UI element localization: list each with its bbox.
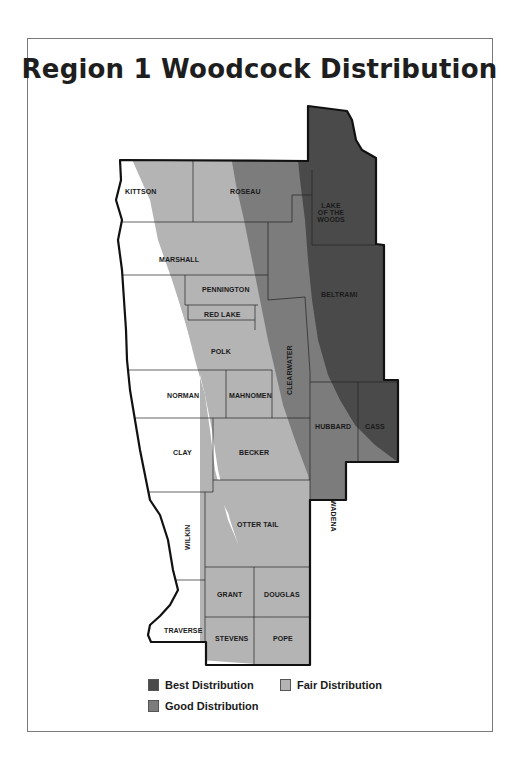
label-hubbard: HUBBARD (315, 423, 351, 430)
label-traverse: TRAVERSE (164, 627, 203, 634)
label-clearwater: CLEARWATER (286, 345, 293, 395)
best-swatch-icon (148, 679, 159, 691)
legend-good: Good Distribution (148, 700, 258, 712)
label-becker: BECKER (239, 449, 269, 456)
label-cass: CASS (365, 423, 385, 430)
label-red-lake: RED LAKE (204, 311, 241, 318)
label-polk: POLK (211, 348, 231, 355)
label-lake-of-the-woods-3: WOODS (317, 216, 345, 223)
label-wilkin: WILKIN (184, 525, 191, 550)
legend-best-label: Best Distribution (165, 679, 254, 691)
label-stevens: STEVENS (215, 635, 249, 642)
fair-swatch-icon (280, 679, 291, 691)
label-roseau: ROSEAU (230, 188, 261, 195)
legend-fair: Fair Distribution (280, 679, 382, 691)
label-douglas: DOUGLAS (264, 591, 300, 598)
label-lake-of-the-woods-2: OF THE (318, 209, 344, 216)
label-norman: NORMAN (167, 392, 199, 399)
good-swatch-icon (148, 700, 159, 712)
label-lake-of-the-woods-1: LAKE (321, 202, 341, 209)
label-grant: GRANT (217, 591, 243, 598)
label-marshall: MARSHALL (159, 256, 200, 263)
label-pope: POPE (273, 635, 293, 642)
label-mahnomen: MAHNOMEN (229, 392, 272, 399)
legend-best: Best Distribution (148, 679, 254, 691)
label-wadena: WADENA (330, 500, 337, 532)
legend-fair-label: Fair Distribution (297, 679, 382, 691)
label-pennington: PENNINGTON (202, 286, 250, 293)
region-map: KITTSON ROSEAU LAKE OF THE WOODS MARSHAL… (0, 0, 519, 774)
distribution-zones (100, 100, 420, 680)
label-clay: CLAY (173, 449, 192, 456)
label-beltrami: BELTRAMI (321, 291, 357, 298)
label-kittson: KITTSON (125, 188, 156, 195)
label-otter-tail: OTTER TAIL (237, 521, 279, 528)
legend-good-label: Good Distribution (165, 700, 258, 712)
